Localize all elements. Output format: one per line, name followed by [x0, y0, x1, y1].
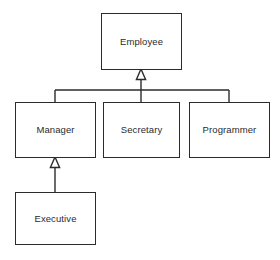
class-box-manager[interactable]: Manager	[15, 102, 96, 158]
class-label-employee: Employee	[120, 37, 163, 47]
class-label-secretary: Secretary	[121, 125, 163, 135]
uml-class-diagram: Employee Manager Secretary Programmer Ex…	[0, 0, 280, 260]
generalization-tree-employee	[55, 69, 229, 102]
class-box-executive[interactable]: Executive	[15, 192, 96, 245]
hollow-triangle-arrowhead-manager	[50, 157, 59, 168]
class-label-executive: Executive	[34, 214, 76, 224]
class-box-programmer[interactable]: Programmer	[189, 102, 270, 158]
generalization-executive-manager	[50, 157, 59, 192]
class-label-manager: Manager	[36, 125, 74, 135]
class-box-secretary[interactable]: Secretary	[103, 102, 180, 158]
hollow-triangle-arrowhead-employee	[136, 69, 145, 80]
class-label-programmer: Programmer	[203, 125, 257, 135]
class-box-employee[interactable]: Employee	[101, 13, 182, 70]
